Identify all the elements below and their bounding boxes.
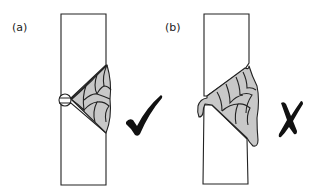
- panel-a: [59, 14, 162, 185]
- panel-b: [198, 14, 303, 184]
- checkmark-icon: [126, 95, 162, 136]
- cross-icon: [279, 101, 303, 137]
- panel-a-backing-bar: [59, 94, 71, 106]
- weld-diagram: [0, 0, 322, 194]
